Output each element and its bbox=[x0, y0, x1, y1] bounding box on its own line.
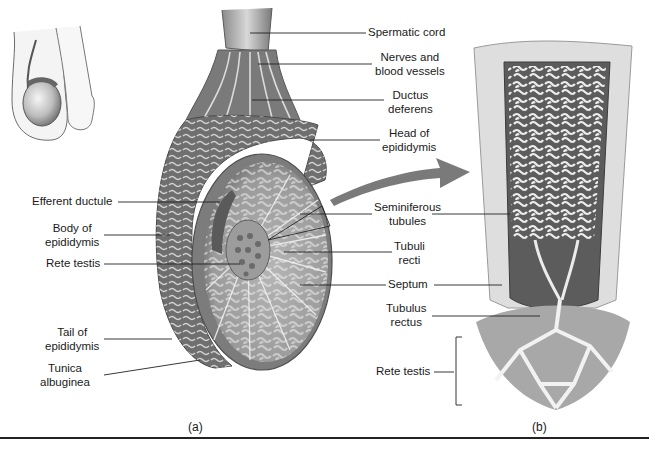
label-ductus-deferens: Ductus deferens bbox=[388, 89, 433, 116]
label-line: Rete testis bbox=[46, 257, 100, 269]
label-tunica-albuginea: Tunica albuginea bbox=[40, 362, 90, 389]
label-line: Spermatic cord bbox=[368, 26, 445, 38]
label-line: Seminiferous bbox=[374, 201, 441, 215]
label-line: Tubuli bbox=[394, 240, 425, 254]
label-line: epididymis bbox=[45, 236, 99, 250]
label-rete-testis-a: Rete testis bbox=[46, 257, 100, 271]
caption-panel-a: (a) bbox=[188, 420, 203, 434]
caption-panel-b: (b) bbox=[532, 420, 547, 434]
label-line: Septum bbox=[388, 278, 428, 290]
label-efferent-ductule: Efferent ductule bbox=[32, 195, 112, 209]
label-line: deferens bbox=[388, 103, 433, 117]
label-line: rectus bbox=[386, 316, 427, 330]
label-line: Tubulus bbox=[386, 302, 427, 316]
label-line: albuginea bbox=[40, 376, 90, 390]
label-septum: Septum bbox=[388, 278, 428, 292]
label-line: epididymis bbox=[45, 340, 99, 354]
label-line: Tunica bbox=[40, 362, 90, 376]
label-tubuli-recti: Tubuli recti bbox=[394, 240, 425, 267]
testis-body bbox=[192, 154, 332, 370]
label-nerves-blood-vessels: Nerves and blood vessels bbox=[375, 51, 445, 78]
lobule-detail bbox=[474, 41, 632, 410]
label-line: recti bbox=[394, 254, 425, 268]
label-line: Ductus bbox=[388, 89, 433, 103]
label-line: Rete testis bbox=[376, 365, 430, 377]
label-line: blood vessels bbox=[375, 65, 445, 79]
label-spermatic-cord: Spermatic cord bbox=[368, 26, 445, 40]
magnify-arrow bbox=[330, 158, 470, 206]
locator-inset bbox=[12, 26, 94, 140]
label-seminiferous-tubules: Seminiferous tubules bbox=[374, 201, 441, 228]
label-line: Nerves and bbox=[375, 51, 445, 65]
label-line: Body of bbox=[45, 222, 99, 236]
divider-rule bbox=[0, 437, 649, 439]
label-rete-testis-b: Rete testis bbox=[376, 365, 430, 379]
label-body-of-epididymis: Body of epididymis bbox=[45, 222, 99, 249]
label-line: Tail of bbox=[45, 326, 99, 340]
label-head-of-epididymis: Head of epididymis bbox=[382, 127, 436, 154]
label-line: epididymis bbox=[382, 141, 436, 155]
label-line: Efferent ductule bbox=[32, 195, 112, 207]
label-line: tubules bbox=[374, 215, 441, 229]
label-tail-of-epididymis: Tail of epididymis bbox=[45, 326, 99, 353]
label-tubulus-rectus: Tubulus rectus bbox=[386, 302, 427, 329]
label-line: Head of bbox=[382, 127, 436, 141]
